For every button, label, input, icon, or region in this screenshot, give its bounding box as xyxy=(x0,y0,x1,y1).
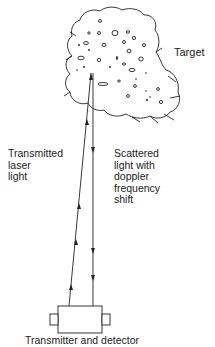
transmitter-detector-device xyxy=(50,306,110,333)
particles xyxy=(78,20,163,104)
device-label: Transmitter and detector xyxy=(25,335,139,347)
transmitted-label: Transmitted laser light xyxy=(8,148,63,183)
target-label: Target xyxy=(174,47,205,59)
transmitted-beam xyxy=(69,73,91,306)
scattered-label: Scattered light with doppler frequency s… xyxy=(114,148,160,206)
